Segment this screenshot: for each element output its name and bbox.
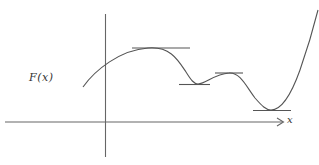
function-label: F(x) bbox=[29, 71, 53, 84]
x-axis-label: x bbox=[287, 114, 293, 125]
function-curve bbox=[83, 10, 318, 110]
